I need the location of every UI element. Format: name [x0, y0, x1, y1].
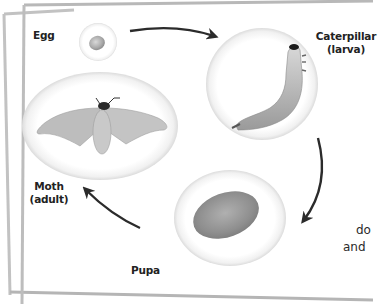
moth-node	[22, 72, 178, 180]
moth-label: Moth	[26, 180, 72, 193]
arrow-egg-to-caterpillar	[130, 28, 214, 36]
caterpillar-node	[206, 28, 318, 140]
pupa-label: Pupa	[131, 264, 160, 277]
moth-sublabel: (adult)	[26, 193, 72, 206]
side-text-line-1: do	[356, 222, 371, 239]
arrow-caterpillar-to-pupa	[304, 138, 322, 220]
arrow-pupa-to-moth	[86, 190, 140, 228]
egg-node	[79, 23, 117, 61]
caterpillar-sublabel: (larva)	[313, 43, 379, 56]
pupa-node	[174, 170, 286, 266]
side-text-line-2: and	[343, 239, 366, 256]
caterpillar-label: Caterpillar	[313, 30, 379, 43]
egg-label: Egg	[33, 29, 55, 42]
